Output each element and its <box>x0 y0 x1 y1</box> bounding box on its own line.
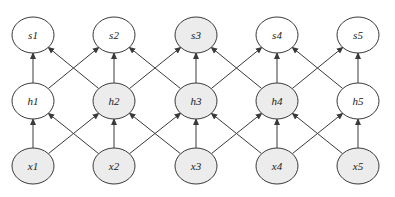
node-h2: h2 <box>93 83 135 119</box>
node-label: s5 <box>353 29 363 41</box>
node-label: x2 <box>108 160 120 172</box>
node-h5: h5 <box>337 83 379 119</box>
network-diagram: s1s2s3s4s5h1h2h3h4h5x1x2x3x4x5 <box>0 0 395 197</box>
node-label: s2 <box>109 29 119 41</box>
node-label: h3 <box>191 95 203 107</box>
node-label: x4 <box>271 160 283 172</box>
node-s3: s3 <box>175 17 217 53</box>
node-s1: s1 <box>12 17 54 53</box>
nodes-layer: s1s2s3s4s5h1h2h3h4h5x1x2x3x4x5 <box>12 17 379 184</box>
node-label: x3 <box>190 160 202 172</box>
node-label: h5 <box>353 95 365 107</box>
node-x4: x4 <box>256 148 298 184</box>
node-x2: x2 <box>93 148 135 184</box>
node-s2: s2 <box>93 17 135 53</box>
node-h3: h3 <box>175 83 217 119</box>
node-label: x1 <box>27 160 38 172</box>
node-label: h2 <box>109 95 121 107</box>
node-label: h4 <box>272 95 284 107</box>
node-label: x5 <box>352 160 364 172</box>
node-label: s3 <box>191 29 201 41</box>
graphical-model-diagram: s1s2s3s4s5h1h2h3h4h5x1x2x3x4x5 <box>0 0 395 197</box>
node-label: s1 <box>28 29 38 41</box>
node-label: h1 <box>28 95 39 107</box>
node-label: s4 <box>272 29 282 41</box>
node-s5: s5 <box>337 17 379 53</box>
node-s4: s4 <box>256 17 298 53</box>
node-h1: h1 <box>12 83 54 119</box>
node-x5: x5 <box>337 148 379 184</box>
node-x1: x1 <box>12 148 54 184</box>
node-x3: x3 <box>175 148 217 184</box>
node-h4: h4 <box>256 83 298 119</box>
